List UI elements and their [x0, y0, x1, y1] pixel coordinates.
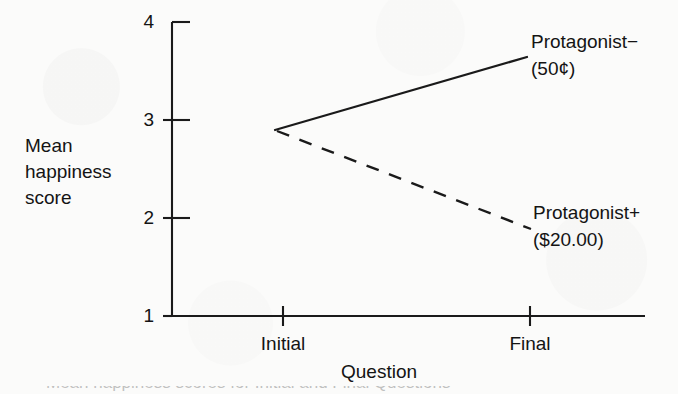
series-label-protagonist-plus: Protagonist+ [533, 203, 640, 222]
y-tick-label-2: 2 [128, 208, 154, 227]
y-axis-title-line-2: happiness [25, 162, 112, 181]
series-sublabel-protagonist-plus: ($20.00) [533, 230, 604, 249]
y-tick-label-3: 3 [128, 110, 154, 129]
series-line-protagonist-minus [275, 57, 527, 130]
y-axis-title-line-3: score [25, 188, 71, 207]
figure-container: 4 3 2 1 Mean happiness score Initial Fin… [0, 0, 678, 394]
cropped-caption-sliver: Mean happiness scores for Initial and Fi… [0, 386, 678, 394]
y-tick-label-1: 1 [128, 306, 154, 325]
y-axis-title-line-1: Mean [25, 136, 73, 155]
x-axis-title: Question [341, 362, 417, 381]
series-sublabel-protagonist-minus: (50¢) [531, 59, 575, 78]
x-tick-label-initial: Initial [233, 334, 333, 353]
series-label-protagonist-minus: Protagonist− [531, 32, 638, 51]
x-tick-label-final: Final [480, 334, 580, 353]
series-line-protagonist-plus [277, 131, 531, 229]
y-tick-label-4: 4 [128, 12, 154, 31]
cropped-caption-text: Mean happiness scores for Initial and Fi… [46, 386, 450, 393]
